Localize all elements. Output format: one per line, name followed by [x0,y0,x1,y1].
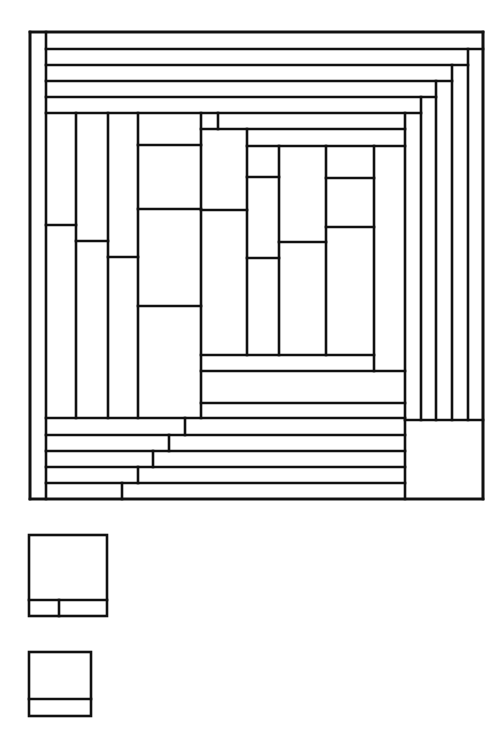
tiling-diagram-canvas [0,0,503,745]
small-square-two-cells [29,535,107,616]
outer-frame [30,32,483,499]
small-square-two-cells-frame [29,535,107,616]
main-rectangle-tiling [30,32,483,499]
small-square-one-cell [29,652,91,716]
small-square-one-cell-frame [29,652,91,716]
